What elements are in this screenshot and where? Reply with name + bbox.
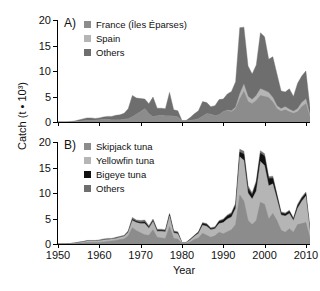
- x-tick-label: 1950: [46, 250, 70, 261]
- panel-b-x-axis: [57, 244, 310, 245]
- legend-label: Spain: [96, 34, 120, 44]
- panel-a-x-axis: [57, 122, 310, 123]
- y-tick-mark: [53, 46, 57, 47]
- legend-item: Others: [84, 46, 187, 59]
- panel-a: A) France (Îles Éparses)SpainOthers 0510…: [58, 20, 310, 122]
- y-tick-mark: [53, 142, 57, 143]
- legend-item: France (Îles Éparses): [84, 18, 187, 31]
- panel-b-legend: Skipjack tunaYellowfin tunaBigeye tunaOt…: [84, 140, 154, 196]
- x-tick-mark: [99, 122, 100, 126]
- y-tick-mark: [53, 168, 57, 169]
- y-tick-label: 0: [45, 117, 51, 128]
- y-tick-mark: [53, 97, 57, 98]
- legend-label: Bigeye tuna: [96, 170, 146, 180]
- y-tick-label: 0: [45, 239, 51, 250]
- legend-swatch-icon: [84, 157, 91, 164]
- x-tick-mark: [265, 122, 266, 126]
- panel-a-tag: A): [64, 16, 76, 30]
- y-axis-title: Catch (t • 10³): [16, 56, 28, 176]
- x-tick-label: 2000: [252, 250, 276, 261]
- x-tick-mark: [182, 244, 183, 248]
- legend-label: Yellowfin tuna: [96, 156, 154, 166]
- y-tick-mark: [53, 122, 57, 123]
- x-tick-label: 1980: [170, 250, 194, 261]
- y-tick-label: 20: [39, 137, 51, 148]
- x-tick-mark: [223, 122, 224, 126]
- y-tick-label: 5: [45, 91, 51, 102]
- y-tick-label: 10: [39, 66, 51, 77]
- panel-b-tag: B): [64, 138, 76, 152]
- y-tick-mark: [53, 71, 57, 72]
- x-tick-mark: [223, 244, 224, 248]
- legend-swatch-icon: [84, 49, 91, 56]
- y-tick-label: 10: [39, 188, 51, 199]
- x-tick-label: 1990: [211, 250, 235, 261]
- panel-a-legend: France (Îles Éparses)SpainOthers: [84, 18, 187, 60]
- y-tick-mark: [53, 244, 57, 245]
- legend-item: Spain: [84, 32, 187, 45]
- legend-label: Others: [96, 48, 125, 58]
- legend-swatch-icon: [84, 21, 91, 28]
- panel-b: B) Skipjack tunaYellowfin tunaBigeye tun…: [58, 142, 310, 244]
- x-tick-label: 2010: [294, 250, 318, 261]
- legend-label: Skipjack tuna: [96, 142, 153, 152]
- legend-swatch-icon: [84, 185, 91, 192]
- legend-item: Skipjack tuna: [84, 140, 154, 153]
- x-tick-mark: [141, 244, 142, 248]
- x-tick-label: 1970: [128, 250, 152, 261]
- x-tick-mark: [306, 244, 307, 248]
- y-tick-mark: [53, 20, 57, 21]
- legend-item: Others: [84, 182, 154, 195]
- legend-swatch-icon: [84, 171, 91, 178]
- figure-root: Catch (t • 10³) Year A) France (Îles Épa…: [0, 0, 320, 291]
- x-tick-mark: [99, 244, 100, 248]
- y-tick-label: 20: [39, 15, 51, 26]
- x-tick-mark: [141, 122, 142, 126]
- legend-label: Others: [96, 184, 125, 194]
- x-tick-mark: [58, 122, 59, 126]
- legend-item: Yellowfin tuna: [84, 154, 154, 167]
- x-axis-title: Year: [58, 264, 310, 276]
- x-tick-mark: [182, 122, 183, 126]
- y-tick-mark: [53, 219, 57, 220]
- x-tick-mark: [58, 244, 59, 248]
- y-tick-label: 15: [39, 40, 51, 51]
- y-tick-mark: [53, 193, 57, 194]
- legend-label: France (Îles Éparses): [96, 20, 187, 30]
- y-tick-label: 5: [45, 213, 51, 224]
- x-tick-label: 1960: [87, 250, 111, 261]
- legend-item: Bigeye tuna: [84, 168, 154, 181]
- legend-swatch-icon: [84, 143, 91, 150]
- legend-swatch-icon: [84, 35, 91, 42]
- x-tick-mark: [306, 122, 307, 126]
- x-tick-mark: [265, 244, 266, 248]
- y-tick-label: 15: [39, 162, 51, 173]
